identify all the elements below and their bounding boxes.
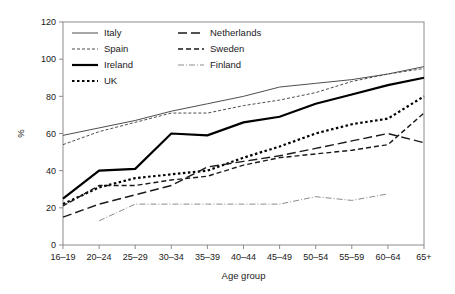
legend-label-italy: Italy: [104, 27, 122, 38]
y-tick-label: 60: [46, 129, 56, 139]
x-tick-label: 65+: [416, 252, 431, 262]
x-axis-tick-labels: 16–1920–2425–2930–3435–3940–4445–4950–54…: [50, 252, 431, 262]
chart-figure: 020406080100120 16–1920–2425–2930–3435–3…: [0, 0, 455, 294]
y-axis-title: %: [15, 129, 26, 138]
y-tick-label: 20: [46, 203, 56, 213]
legend-label-ireland: Ireland: [104, 59, 133, 70]
x-tick-label: 40–44: [231, 252, 256, 262]
legend-label-sweden: Sweden: [210, 43, 244, 54]
y-tick-label: 80: [46, 92, 56, 102]
x-tick-label: 60–64: [375, 252, 400, 262]
x-tick-label: 30–34: [159, 252, 184, 262]
y-tick-label: 0: [51, 240, 56, 250]
legend-label-spain: Spain: [104, 43, 128, 54]
x-tick-label: 25–29: [123, 252, 148, 262]
y-tick-label: 100: [41, 54, 56, 64]
y-tick-label: 120: [41, 17, 56, 27]
x-tick-label: 35–39: [195, 252, 220, 262]
x-tick-label: 20–24: [87, 252, 112, 262]
line-chart: 020406080100120 16–1920–2425–2930–3435–3…: [0, 0, 455, 294]
legend-label-netherlands: Netherlands: [210, 27, 261, 38]
legend-label-finland: Finland: [210, 59, 241, 70]
x-tick-label: 50–54: [303, 252, 328, 262]
legend-label-uk: UK: [104, 75, 118, 86]
y-tick-label: 40: [46, 166, 56, 176]
x-tick-label: 45–49: [267, 252, 292, 262]
x-tick-label: 16–19: [50, 252, 75, 262]
x-axis-title: Age group: [222, 270, 266, 281]
x-tick-label: 55–59: [339, 252, 364, 262]
